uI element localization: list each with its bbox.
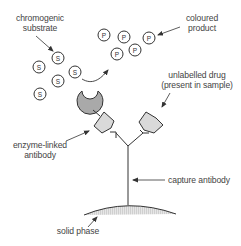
substrate-molecule-4: S [52, 75, 64, 87]
product-molecules: P P P P P [98, 29, 155, 60]
product-molecule-5: P [129, 44, 141, 56]
svg-text:S: S [38, 91, 43, 98]
label-coloured-product: coloured product [178, 13, 226, 33]
substrate-molecule-2: S [33, 61, 45, 73]
substrate-molecule-3: S [69, 66, 81, 78]
substrate-molecules: S S S S S [33, 52, 81, 100]
label-solid-phase: solid phase [56, 226, 100, 236]
svg-text:S: S [73, 69, 78, 76]
substrate-pointer-arrow [36, 36, 53, 51]
product-molecule-1: P [98, 29, 110, 41]
elisa-diagram: S S S S S P P P P P [0, 0, 241, 246]
svg-text:S: S [56, 78, 61, 85]
product-pointer-arrow [158, 27, 180, 35]
product-molecule-4: P [111, 48, 123, 60]
drug-pointer-arrow [162, 93, 170, 107]
capture-antibody-right-arm [128, 133, 143, 146]
enzyme-linked-antibody [110, 132, 116, 138]
product-molecule-3: P [143, 32, 155, 44]
label-enzyme-linked-antibody: enzyme-linked antibody [8, 140, 72, 160]
svg-text:P: P [122, 34, 126, 41]
enzyme-shape [77, 91, 103, 114]
drug-left [94, 112, 114, 133]
label-capture-antibody: capture antibody [164, 175, 234, 185]
diagram-graphics: S S S S S P P P P P [0, 0, 241, 246]
svg-text:P: P [147, 35, 151, 42]
svg-text:P: P [102, 32, 106, 39]
label-unlabelled-drug: unlabelled drug (present in sample) [158, 70, 236, 90]
reaction-arrow [82, 70, 108, 82]
svg-text:S: S [56, 55, 61, 62]
svg-text:P: P [133, 47, 137, 54]
product-molecule-2: P [118, 31, 130, 43]
substrate-molecule-1: S [52, 52, 64, 64]
svg-text:S: S [37, 64, 42, 71]
capture-antibody-left-arm [116, 133, 128, 146]
svg-text:P: P [115, 51, 119, 58]
substrate-molecule-5: S [34, 88, 46, 100]
label-chromogenic-substrate: chromogenic substrate [8, 13, 72, 33]
drug-right [139, 112, 163, 133]
